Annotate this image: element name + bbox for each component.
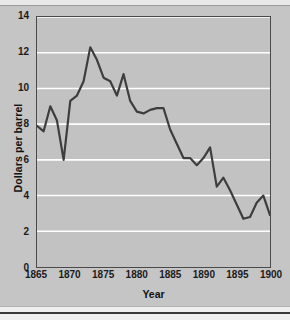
x-tick-label: 1885 (159, 270, 181, 280)
x-tick-label: 1890 (193, 270, 215, 280)
bottom-rule-light (0, 306, 290, 307)
plot-area (36, 16, 271, 268)
bottom-rule-dark (0, 312, 290, 314)
x-tick-label: 1870 (58, 270, 80, 280)
x-tick-label: 1865 (25, 270, 47, 280)
y-tick-label: 2 (23, 227, 29, 237)
y-tick-label: 12 (18, 47, 29, 57)
top-divider-rule (0, 5, 290, 6)
x-axis-title: Year (36, 288, 271, 300)
x-tick-label: 1895 (226, 270, 248, 280)
x-axis-tick-labels: 18651870187518801885189018951900 (36, 270, 271, 284)
x-tick-label: 1880 (126, 270, 148, 280)
data-series-line (37, 17, 270, 267)
y-tick-label: 6 (23, 155, 29, 165)
y-tick-label: 14 (18, 11, 29, 21)
oil-price-chart-figure: 02468101214 Dollars per barrel 186518701… (0, 0, 290, 320)
y-tick-label: 4 (23, 191, 29, 201)
y-tick-label: 8 (23, 119, 29, 129)
x-tick-label: 1875 (92, 270, 114, 280)
x-tick-label: 1900 (260, 270, 282, 280)
y-axis-title: Dollars per barrel (12, 68, 24, 228)
